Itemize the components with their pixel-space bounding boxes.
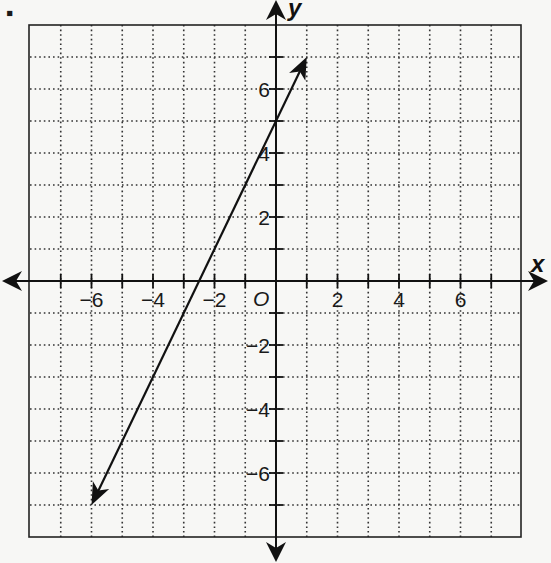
x-tick-label: −2: [203, 288, 227, 311]
x-tick-label: −4: [141, 288, 165, 311]
x-axis-label: x: [529, 250, 546, 277]
y-axis-label: y: [287, 0, 303, 21]
x-tick-label: 4: [393, 288, 405, 311]
y-tick-label: −6: [246, 462, 270, 485]
x-tick-label: −6: [80, 288, 104, 311]
axes: [2, 0, 548, 562]
origin-label: O: [253, 287, 269, 310]
y-tick-label: 2: [258, 206, 270, 229]
x-tick-label: 6: [455, 288, 467, 311]
y-tick-label: −2: [246, 334, 270, 357]
x-tick-label: 2: [332, 288, 344, 311]
coordinate-plane: ▪ −6−4−2246642−2−4−6 x y O: [0, 0, 551, 563]
bullet-mark: ▪: [6, 1, 13, 24]
y-tick-label: −4: [246, 398, 270, 421]
y-tick-label: 6: [258, 78, 270, 101]
